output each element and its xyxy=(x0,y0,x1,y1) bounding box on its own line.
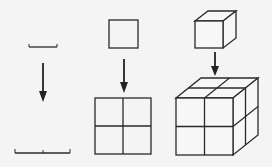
down-arrow-icon xyxy=(39,63,47,102)
down-arrow-icon xyxy=(120,59,128,93)
cube-small xyxy=(195,11,236,48)
square-2x2-grid xyxy=(95,98,151,154)
cube-2x2x2 xyxy=(176,78,258,155)
column-1d xyxy=(15,44,70,153)
down-arrow-icon xyxy=(211,52,219,76)
column-3d xyxy=(176,11,258,155)
line-segment-small xyxy=(29,44,57,47)
scaling-diagram xyxy=(0,0,272,167)
line-segment-doubled xyxy=(15,149,70,153)
column-2d xyxy=(95,20,151,154)
square-small xyxy=(109,20,138,48)
